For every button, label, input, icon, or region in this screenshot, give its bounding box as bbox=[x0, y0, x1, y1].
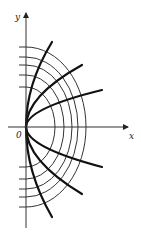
axes bbox=[8, 13, 128, 228]
parabola-curve bbox=[26, 127, 52, 217]
y-axis-label: y bbox=[14, 12, 21, 22]
x-axis-label: x bbox=[129, 131, 134, 141]
orthogonal-curves-diagram: x y 0 bbox=[0, 0, 141, 233]
origin-label: 0 bbox=[16, 130, 22, 140]
